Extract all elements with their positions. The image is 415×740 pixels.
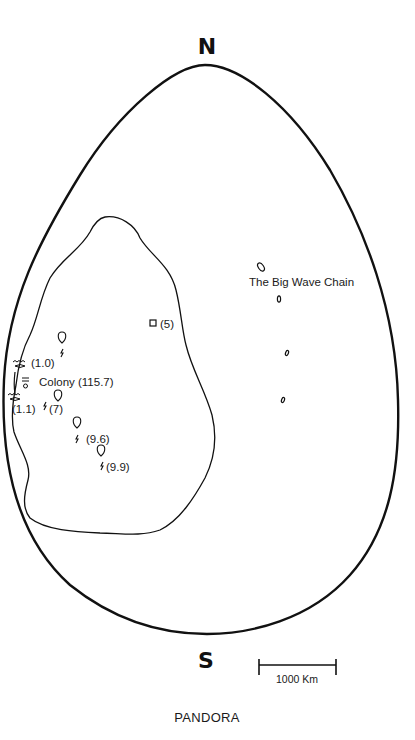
balloon-site [58,332,66,357]
coast-line [14,372,15,394]
geyser-icon [101,462,103,470]
map-canvas: N S The Big Wave Chain (5) (1.0) Colony … [0,0,415,740]
balloon-site: (9.9) [97,445,130,473]
wave-site: (1.1) [8,394,36,416]
islet-icon [277,296,280,302]
big-wave-chain: The Big Wave Chain [249,262,354,403]
square-site-label: (5) [160,318,174,330]
balloon-icon [97,445,105,456]
colony-label: Colony (115.7) [39,376,114,388]
geyser-icon [76,435,78,443]
big-wave-chain-label: The Big Wave Chain [249,276,354,288]
islet-icon [281,397,285,403]
balloon-site-label: (7) [49,403,63,415]
north-label: N [198,34,216,59]
colony-icon [22,378,29,388]
balloon-icon [58,332,66,343]
scale-bar-label: 1000 Km [276,673,318,685]
south-label: S [198,648,214,673]
balloon-icon [54,390,62,401]
square-site: (5) [150,318,174,330]
geyser-icon [44,402,46,410]
square-marker-icon [150,320,156,326]
balloon-icon [73,417,81,428]
geyser-icon [61,349,63,357]
islet-icon [256,262,265,272]
map-title: PANDORA [174,710,239,725]
balloon-site: (7) [44,390,63,415]
colony: Colony (115.7) [22,376,114,388]
scale-bar: 1000 Km [259,659,336,685]
wave-site-label: (1.1) [12,403,36,415]
islet-icon [285,350,289,356]
balloon-site: (9.6) [73,417,110,445]
balloon-site-label: (9.6) [86,433,110,445]
balloon-site-label: (9.9) [106,461,130,473]
wave-site-label: (1.0) [31,357,55,369]
